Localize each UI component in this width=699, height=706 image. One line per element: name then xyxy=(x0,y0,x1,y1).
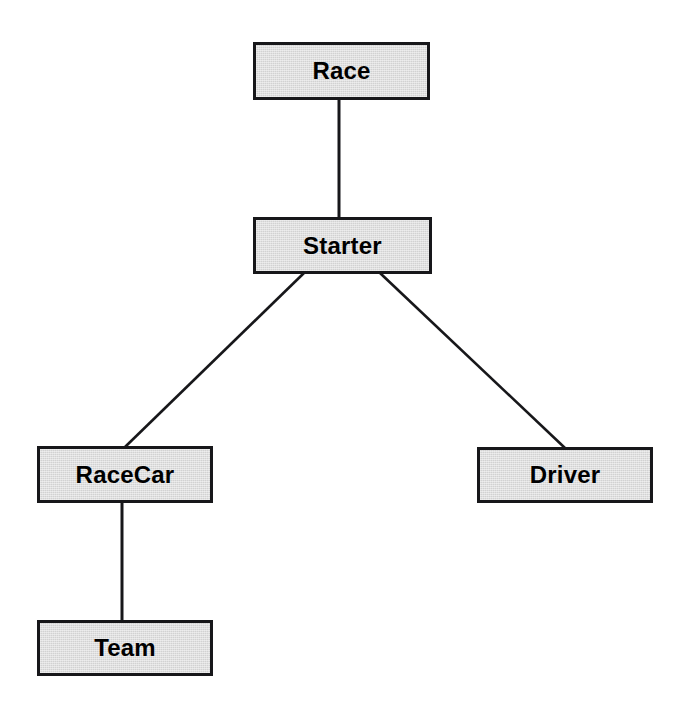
node-driver[interactable]: Driver xyxy=(477,447,653,503)
node-racecar[interactable]: RaceCar xyxy=(37,446,213,503)
node-driver-label: Driver xyxy=(530,463,601,487)
node-starter-label: Starter xyxy=(303,234,382,258)
diagram-canvas: Race Starter RaceCar Driver Team xyxy=(0,0,699,706)
edge-starter-driver xyxy=(380,273,565,448)
node-starter[interactable]: Starter xyxy=(253,217,432,274)
node-race[interactable]: Race xyxy=(253,42,430,100)
node-race-label: Race xyxy=(312,59,370,83)
connector-layer xyxy=(0,0,699,706)
edge-starter-racecar xyxy=(125,273,304,447)
node-racecar-label: RaceCar xyxy=(76,463,175,487)
node-team-label: Team xyxy=(94,636,156,660)
node-team[interactable]: Team xyxy=(37,620,213,676)
